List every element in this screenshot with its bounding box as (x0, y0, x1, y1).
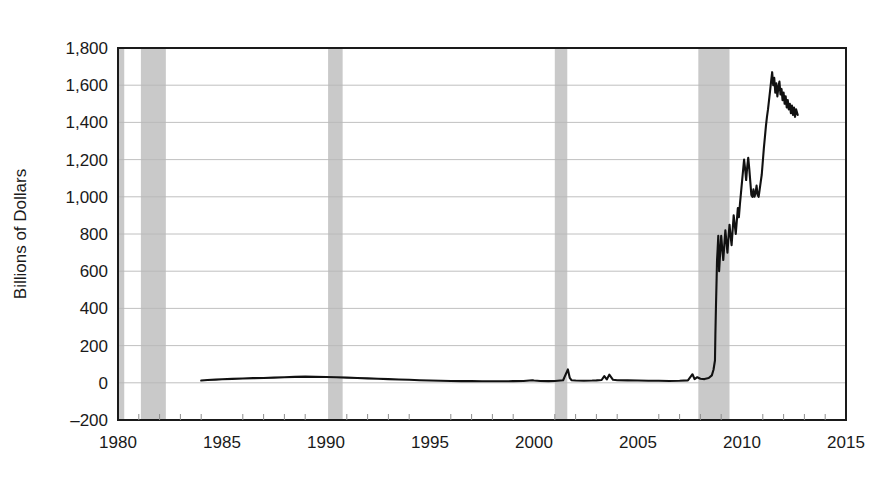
x-tick-labels-group: 19801985199019952000200520102015 (99, 433, 865, 452)
x-tick-label: 2000 (515, 433, 553, 452)
y-tick-label: 1,000 (65, 188, 108, 207)
chart-canvas: –20002004006008001,0001,2001,4001,6001,8… (0, 0, 890, 478)
x-tick-label: 2005 (619, 433, 657, 452)
y-tick-label: 800 (80, 225, 108, 244)
x-tick-label: 2010 (723, 433, 761, 452)
y-tick-label: 1,400 (65, 113, 108, 132)
y-tick-label: 1,200 (65, 151, 108, 170)
y-tick-label: 200 (80, 337, 108, 356)
x-tick-label: 1980 (99, 433, 137, 452)
y-tick-label: 1,600 (65, 76, 108, 95)
y-tick-label: 1,800 (65, 39, 108, 58)
y-tick-label: 0 (99, 374, 108, 393)
y-axis-title: Billions of Dollars (11, 169, 30, 299)
x-tick-label: 2015 (827, 433, 865, 452)
x-tick-label: 1990 (307, 433, 345, 452)
y-tick-label: 600 (80, 262, 108, 281)
x-tick-label: 1995 (411, 433, 449, 452)
y-tick-label: 400 (80, 299, 108, 318)
chart-figure: –20002004006008001,0001,2001,4001,6001,8… (0, 0, 890, 478)
x-tick-label: 1985 (203, 433, 241, 452)
y-axis-title-group: Billions of Dollars (11, 169, 30, 299)
y-tick-labels-group: –20002004006008001,0001,2001,4001,6001,8… (65, 39, 108, 430)
y-tick-label: –200 (70, 411, 108, 430)
